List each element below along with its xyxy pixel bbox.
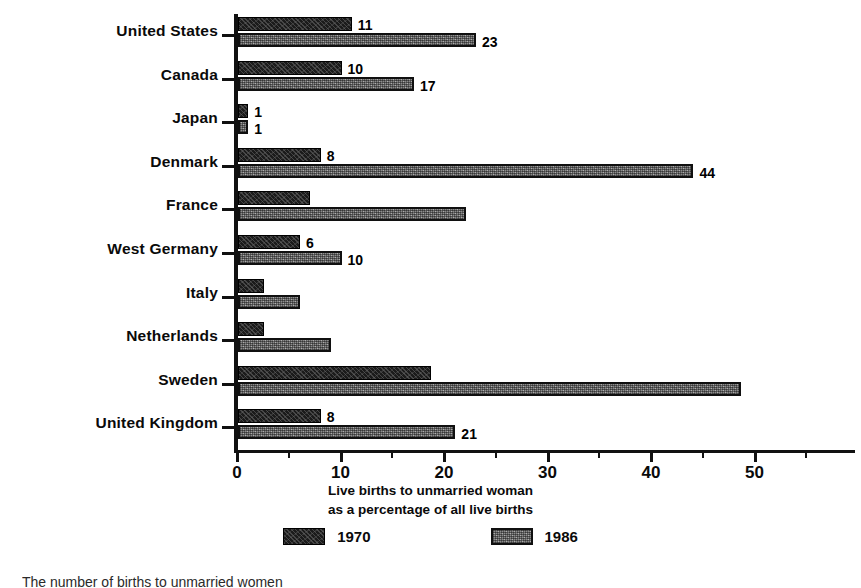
bar-1986	[238, 295, 300, 309]
bar-row: United States1123	[0, 14, 861, 58]
x-tick-label: 20	[435, 463, 454, 483]
bar-row: Netherlands	[0, 319, 861, 363]
chart-page: United States1123Canada1017Japan11Denmar…	[0, 0, 861, 588]
bar-row: West Germany610	[0, 232, 861, 276]
x-axis-ticks: 01020304050	[0, 450, 861, 484]
category-label: Canada	[0, 66, 218, 84]
bar-value-label: 8	[327, 149, 335, 163]
category-label: West Germany	[0, 240, 218, 258]
bar-rows: United States1123Canada1017Japan11Denmar…	[0, 14, 861, 450]
legend-label-1986: 1986	[545, 528, 578, 545]
footnote-text: The number of births to unmarried women	[22, 575, 722, 588]
plot-area: United States1123Canada1017Japan11Denmar…	[0, 0, 861, 460]
x-axis-title-line-1: Live births to unmarried woman	[328, 483, 533, 498]
x-tick-label: 50	[745, 463, 764, 483]
bar-1986	[238, 207, 466, 221]
category-label: United States	[0, 22, 218, 40]
bar-group	[238, 188, 861, 232]
bar-value-label: 1	[254, 122, 262, 136]
category-tick	[222, 121, 236, 124]
bar-value-label: 17	[420, 79, 436, 93]
bar-group: 1123	[238, 14, 861, 58]
bar-group: 821	[238, 406, 861, 450]
bar-value-label: 11	[358, 18, 373, 32]
bar-1970	[238, 17, 352, 31]
category-tick	[222, 426, 236, 429]
bar-group: 1017	[238, 58, 861, 102]
bar-value-label: 23	[482, 35, 498, 49]
legend-item-1970: 1970	[283, 528, 370, 545]
category-tick	[222, 165, 236, 168]
bar-group: 844	[238, 145, 861, 189]
bar-group: 11	[238, 101, 861, 145]
category-label: Sweden	[0, 371, 218, 389]
bar-1970	[238, 235, 300, 249]
bar-value-label: 10	[348, 253, 364, 267]
bar-1986	[238, 382, 741, 396]
x-tick-major	[340, 453, 343, 462]
bar-group: 610	[238, 232, 861, 276]
category-tick	[222, 296, 236, 299]
category-tick	[222, 339, 236, 342]
bar-1970	[238, 279, 264, 293]
x-tick-label: 10	[331, 463, 350, 483]
x-axis-title-line-2: as a percentage of all live births	[0, 500, 861, 519]
bar-1970	[238, 409, 321, 423]
bar-group	[238, 363, 861, 407]
x-tick-label: 0	[232, 463, 241, 483]
bar-1970	[238, 104, 248, 118]
x-tick-major	[547, 453, 550, 462]
bar-1986	[238, 425, 455, 439]
bar-row: France	[0, 188, 861, 232]
x-tick-label: 40	[642, 463, 661, 483]
category-label: Netherlands	[0, 327, 218, 345]
bar-1986	[238, 33, 476, 47]
bar-row: Japan11	[0, 101, 861, 145]
bar-row: United Kingdom821	[0, 406, 861, 450]
x-tick-minor	[288, 453, 290, 458]
bar-1970	[238, 322, 264, 336]
category-label: Italy	[0, 284, 218, 302]
bar-1970	[238, 61, 342, 75]
x-tick-major	[236, 453, 239, 462]
bar-row: Sweden	[0, 363, 861, 407]
bar-group	[238, 276, 861, 320]
x-axis-title: Live births to unmarried woman as a perc…	[0, 481, 861, 519]
bar-value-label: 21	[461, 427, 477, 441]
bar-1970	[238, 191, 310, 205]
bar-1986	[238, 120, 248, 134]
category-tick	[222, 383, 236, 386]
x-tick-minor	[495, 453, 497, 458]
legend-swatch-1986	[491, 528, 533, 545]
x-tick-major	[754, 453, 757, 462]
bar-1986	[238, 338, 331, 352]
category-label: Japan	[0, 109, 218, 127]
x-tick-major	[650, 453, 653, 462]
bar-row: Denmark844	[0, 145, 861, 189]
bar-row: Canada1017	[0, 58, 861, 102]
bar-value-label: 44	[699, 166, 715, 180]
bar-1986	[238, 77, 414, 91]
bar-value-label: 8	[327, 410, 335, 424]
x-tick-minor	[598, 453, 600, 458]
category-tick	[222, 34, 236, 37]
bar-group	[238, 319, 861, 363]
category-tick	[222, 78, 236, 81]
category-tick	[222, 208, 236, 211]
bar-row: Italy	[0, 276, 861, 320]
bar-value-label: 1	[254, 105, 262, 119]
bar-1986	[238, 251, 342, 265]
bar-value-label: 6	[306, 236, 314, 250]
bar-1970	[238, 366, 431, 380]
legend-swatch-1970	[283, 528, 325, 545]
category-tick	[222, 252, 236, 255]
category-label: France	[0, 196, 218, 214]
chart-legend: 19701986	[0, 528, 861, 545]
x-tick-label: 30	[538, 463, 557, 483]
legend-item-1986: 1986	[491, 528, 578, 545]
category-label: United Kingdom	[0, 414, 218, 432]
bar-1970	[238, 148, 321, 162]
x-tick-major	[443, 453, 446, 462]
x-tick-minor	[391, 453, 393, 458]
legend-label-1970: 1970	[337, 528, 370, 545]
